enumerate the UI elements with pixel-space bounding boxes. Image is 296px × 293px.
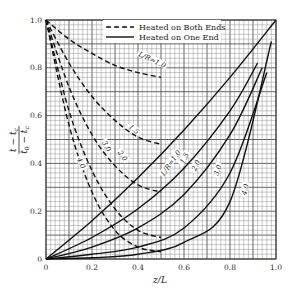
- y-tick: 1.0: [30, 16, 42, 25]
- x-axis-label: z/L: [152, 275, 167, 285]
- legend: Heated on Both Ends Heated on One End: [103, 20, 225, 43]
- y-axis-label-denominator: t0 − tc: [19, 126, 30, 154]
- legend-label-both-ends: Heated on Both Ends: [139, 23, 225, 32]
- y-axis-label: t − tc t0 − tc: [8, 126, 30, 154]
- one-end-curve: [46, 42, 271, 259]
- x-axis-ticks: 0 0.2 0.4 0.6 0.8 1.0: [44, 263, 283, 272]
- x-tick: 0.4: [132, 263, 144, 272]
- y-tick: 0.6: [30, 111, 42, 120]
- y-tick: 0.8: [30, 63, 42, 72]
- y-tick: 0: [37, 255, 42, 264]
- x-tick: 0.6: [178, 263, 190, 272]
- plot-grid: [46, 20, 276, 259]
- chart: L/R=1.01.52.03.04.0L/R=1.01.52.03.04.0 H…: [0, 0, 296, 293]
- x-tick: 1.0: [270, 263, 282, 272]
- y-axis-ticks: 0 0.2 0.4 0.6 0.8 1.0: [30, 16, 42, 264]
- x-tick: 0.8: [224, 263, 236, 272]
- legend-label-one-end: Heated on One End: [139, 33, 219, 42]
- y-tick: 0.4: [30, 159, 42, 168]
- y-axis-label-numerator: t − tc: [8, 127, 19, 152]
- x-tick: 0.2: [86, 263, 98, 272]
- x-tick: 0: [44, 263, 49, 272]
- y-tick: 0.2: [30, 207, 42, 216]
